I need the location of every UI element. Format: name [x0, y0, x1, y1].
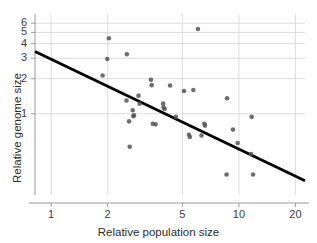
data-point	[249, 152, 254, 157]
data-point	[168, 83, 173, 88]
gridlines	[35, 14, 305, 195]
x-tick-label: 2	[93, 209, 123, 220]
data-point	[132, 113, 137, 118]
y-tick-label: 4	[7, 38, 27, 49]
data-point	[191, 88, 196, 93]
data-point	[188, 135, 193, 140]
data-point	[100, 73, 105, 78]
data-point	[249, 115, 254, 120]
data-point	[130, 108, 135, 113]
data-point	[153, 122, 158, 127]
y-axis-title: Relative genome size	[12, 73, 24, 183]
x-tick-label: 10	[224, 209, 254, 220]
data-point	[105, 57, 110, 62]
data-point	[225, 96, 230, 101]
y-tick-label: 6	[7, 17, 27, 28]
data-point	[196, 27, 201, 32]
data-point	[136, 93, 141, 98]
data-point	[149, 83, 154, 88]
data-point	[231, 127, 236, 132]
tick-marks	[31, 23, 295, 207]
data-point	[235, 141, 240, 146]
data-point	[127, 144, 132, 149]
data-point	[125, 52, 130, 57]
data-point	[149, 77, 154, 82]
axis-lines	[29, 14, 309, 203]
data-points	[100, 27, 255, 177]
data-point	[182, 89, 187, 94]
trend-line	[35, 52, 305, 181]
data-point	[162, 107, 167, 112]
data-point	[199, 133, 204, 138]
scatter-plot-figure: 123456 1251020 Relative population size …	[0, 0, 317, 243]
x-tick-label: 5	[167, 209, 197, 220]
x-tick-label: 20	[280, 209, 310, 220]
data-point	[137, 101, 142, 106]
y-tick-label: 3	[7, 52, 27, 63]
data-point	[224, 172, 229, 177]
data-point	[203, 123, 208, 128]
data-point	[174, 115, 179, 120]
x-tick-label: 1	[36, 209, 66, 220]
data-point	[251, 172, 256, 177]
data-point	[124, 98, 129, 103]
data-point	[127, 119, 132, 124]
x-axis-title: Relative population size	[0, 227, 317, 239]
data-point	[107, 36, 112, 41]
plot-canvas	[0, 0, 317, 243]
